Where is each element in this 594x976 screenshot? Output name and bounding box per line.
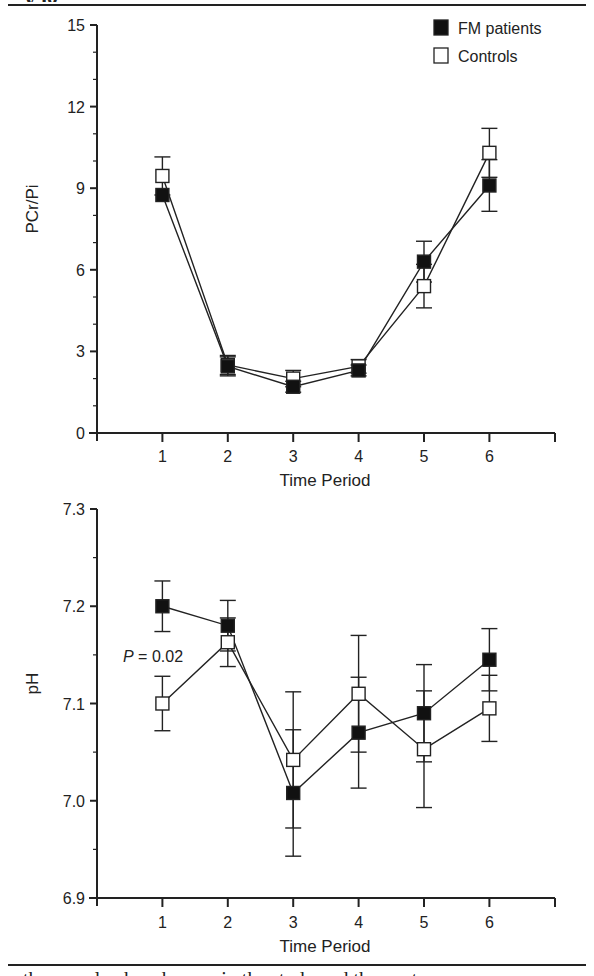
y-tick-label: 12 [67,99,85,116]
x-tick-label: 2 [223,448,232,465]
marker-controls [418,743,431,756]
marker-controls [156,169,169,182]
legend-label: Controls [458,48,518,65]
x-tick-label: 4 [354,448,363,465]
footer-rule [8,964,586,966]
x-tick-label: 4 [354,914,363,931]
series-line-controls [162,153,489,379]
legend-label: FM patients [458,20,542,37]
series-line-fm-patients [162,606,489,793]
marker-fm-patients [352,364,365,377]
y-axis-label: PCr/Pi [23,184,42,233]
chart-ph: 6.97.07.17.27.3123456Time PeriodpH [23,501,555,956]
marker-controls [352,687,365,700]
x-tick-label: 3 [289,448,298,465]
x-tick-label: 6 [485,914,494,931]
marker-fm-patients [483,653,496,666]
p-value-annotation: P = 0.02 [123,648,183,665]
y-axis-label: pH [23,673,42,695]
marker-fm-patients [156,600,169,613]
y-tick-label: 7.3 [63,501,85,518]
y-tick-label: 9 [76,180,85,197]
marker-fm-patients [221,619,234,632]
x-tick-label: 3 [289,914,298,931]
x-tick-label: 1 [158,914,167,931]
x-axis-label: Time Period [279,471,370,490]
legend: FM patientsControls [434,20,542,65]
marker-controls [483,146,496,159]
marker-fm-patients [156,189,169,202]
marker-fm-patients [483,179,496,192]
marker-fm-patients [221,360,234,373]
series-line-fm-patients [162,185,489,386]
y-tick-label: 7.1 [63,696,85,713]
x-axis-label: Time Period [279,937,370,956]
marker-controls [287,753,300,766]
x-tick-label: 5 [420,448,429,465]
x-tick-label: 1 [158,448,167,465]
marker-controls [156,697,169,710]
footer-cut-text: ...the muscle phosphorous in the study a… [8,968,432,976]
y-tick-label: 15 [67,17,85,34]
y-tick-label: 6.9 [63,890,85,907]
x-tick-label: 2 [223,914,232,931]
y-tick-label: 0 [76,425,85,442]
marker-fm-patients [418,255,431,268]
y-tick-label: 7.2 [63,598,85,615]
legend-filled-square-icon [434,20,448,35]
x-tick-label: 5 [420,914,429,931]
marker-fm-patients [352,726,365,739]
marker-fm-patients [418,707,431,720]
x-tick-label: 6 [485,448,494,465]
y-tick-label: 7.0 [63,793,85,810]
y-tick-label: 6 [76,262,85,279]
marker-controls [418,280,431,293]
marker-controls [483,702,496,715]
marker-fm-patients [287,380,300,393]
marker-fm-patients [287,786,300,799]
chart-pcr-pi: 03691215123456Time PeriodPCr/Pi [23,17,555,490]
marker-controls [221,636,234,649]
y-tick-label: 3 [76,343,85,360]
series-line-controls [162,642,489,760]
legend-open-square-icon [434,48,448,63]
